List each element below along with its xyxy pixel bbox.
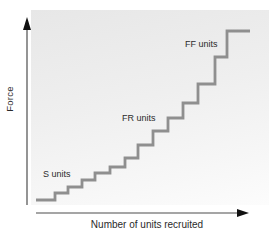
- annotation-s-units: S units: [43, 169, 71, 179]
- recruitment-figure: Force Number of units recruited S unitsF…: [0, 0, 269, 233]
- annotation-fr-units: FR units: [122, 113, 156, 123]
- y-axis-label: Force: [4, 86, 15, 111]
- annotation-ff-units: FF units: [185, 39, 218, 49]
- x-axis-label: Number of units recruited: [91, 219, 203, 230]
- x-axis-arrowhead-icon: [237, 209, 249, 217]
- y-axis-arrowhead-icon: [23, 17, 31, 30]
